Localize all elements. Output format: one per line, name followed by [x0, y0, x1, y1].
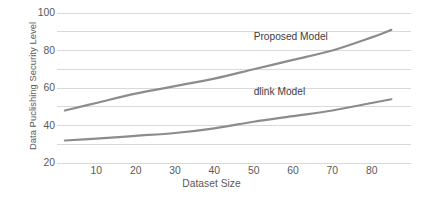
x-tick-label: 80	[357, 165, 387, 177]
x-axis-title: Dataset Size	[0, 178, 423, 190]
x-tick-label: 70	[317, 165, 347, 177]
x-tick-label: 20	[121, 165, 151, 177]
series-label-1: dlink Model	[254, 86, 306, 98]
series-label-0: Proposed Model	[254, 31, 328, 43]
x-tick-label: 30	[160, 165, 190, 177]
x-tick-label: 40	[199, 165, 229, 177]
x-axis-tick-labels: 1020304050607080	[0, 0, 423, 198]
x-tick-label: 50	[239, 165, 269, 177]
line-chart: Data Puclishing Security Level 204060801…	[0, 0, 423, 198]
x-tick-label: 10	[81, 165, 111, 177]
x-tick-label: 60	[278, 165, 308, 177]
